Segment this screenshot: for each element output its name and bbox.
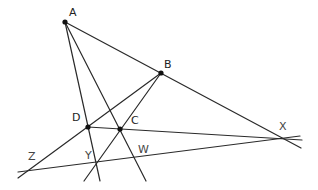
- label-x: X: [279, 120, 287, 133]
- line-AD: [65, 22, 100, 181]
- label-w: W: [138, 143, 149, 156]
- point-a: [62, 19, 67, 24]
- point-b: [158, 70, 163, 75]
- label-b: B: [164, 58, 172, 71]
- point-d: [85, 124, 90, 129]
- line-ZX: [18, 136, 300, 172]
- point-c: [117, 126, 122, 131]
- label-d: D: [72, 111, 80, 124]
- label-a: A: [69, 6, 77, 19]
- line-AX: [65, 22, 301, 148]
- label-c: C: [131, 114, 139, 127]
- label-y: Y: [84, 149, 92, 162]
- lines-group: [18, 22, 302, 181]
- geometry-diagram: ABCDXYWZ: [0, 0, 318, 190]
- label-z: Z: [28, 150, 36, 163]
